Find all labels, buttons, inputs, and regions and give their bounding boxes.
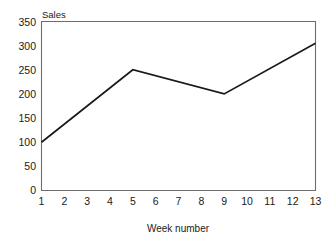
x-tick-label: 3	[84, 195, 90, 207]
x-tick-label: 9	[221, 195, 227, 207]
y-tick-label: 250	[18, 64, 36, 76]
y-tick-label: 350	[18, 16, 36, 28]
y-tick-label: 200	[18, 88, 36, 100]
y-tick-label: 150	[18, 112, 36, 124]
y-axis-title: Sales	[42, 9, 66, 20]
x-tick-label: 12	[287, 195, 299, 207]
x-tick-label: 13	[310, 195, 322, 207]
y-tick-label: 300	[18, 40, 36, 52]
x-tick-label: 4	[107, 195, 113, 207]
x-tick-label: 8	[198, 195, 204, 207]
x-tick-label: 10	[241, 195, 253, 207]
chart-background	[0, 0, 327, 244]
y-tick-label: 50	[24, 160, 36, 172]
x-axis-title: Week number	[147, 223, 210, 234]
x-tick-label: 2	[61, 195, 67, 207]
x-tick-label: 6	[153, 195, 159, 207]
x-tick-label: 1	[39, 195, 45, 207]
x-tick-label: 11	[264, 195, 275, 207]
y-tick-label: 100	[18, 136, 36, 148]
x-tick-label: 5	[130, 195, 136, 207]
chart-screenshot: Sales 350 300 250 200 150 100 50 0 1 2 3…	[0, 0, 327, 244]
y-tick-label: 0	[30, 184, 36, 196]
x-tick-label: 7	[176, 195, 182, 207]
sales-line-chart: Sales 350 300 250 200 150 100 50 0 1 2 3…	[0, 0, 327, 244]
